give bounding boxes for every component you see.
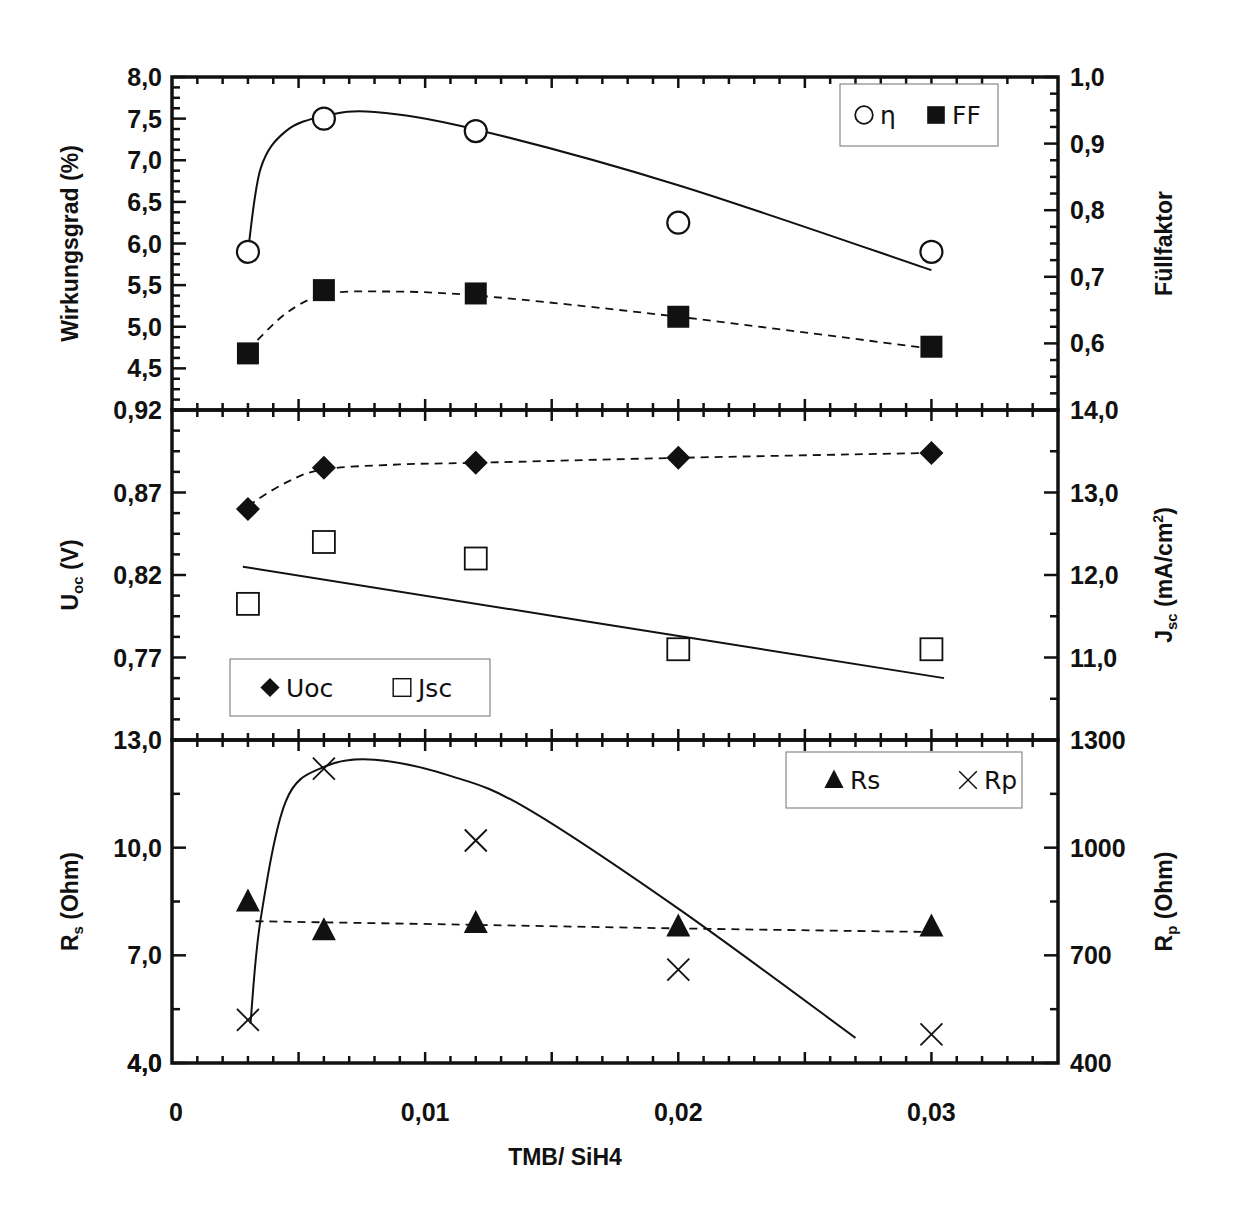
open-circle-marker bbox=[237, 241, 259, 263]
left-tick-label: 7,5 bbox=[127, 105, 162, 133]
legend-top: ηFF bbox=[840, 84, 998, 146]
axis-title: Jsc (mA/cm2) bbox=[1150, 507, 1180, 643]
open-circle-marker bbox=[855, 106, 873, 124]
series-jsc bbox=[237, 531, 942, 660]
filled-diamond-marker bbox=[666, 446, 690, 470]
axis-title: Wirkungsgrad (%) bbox=[57, 145, 83, 342]
cross-marker bbox=[667, 959, 689, 981]
right-tick-label: 1300 bbox=[1070, 726, 1126, 754]
legend-label: Rp bbox=[984, 766, 1017, 795]
x-tick-label: 0,02 bbox=[654, 1098, 703, 1126]
x-axis-title: TMB/ SiH4 bbox=[508, 1144, 622, 1170]
panel-bottom: 13,010,07,04,04,013001000700400Rs (Ohm)R… bbox=[57, 726, 1180, 1077]
right-tick-label: 700 bbox=[1070, 941, 1112, 969]
left-tick-label: 5,0 bbox=[127, 313, 162, 341]
x-tick-label: 0,01 bbox=[401, 1098, 450, 1126]
legend-label: Rs bbox=[850, 766, 880, 795]
panel-middle: 0,920,870,820,7714,013,012,011,0Uoc (V)J… bbox=[57, 396, 1180, 740]
filled-square-marker bbox=[927, 106, 945, 124]
open-square-marker bbox=[393, 679, 411, 697]
filled-square-marker bbox=[237, 342, 259, 364]
fit-line-rp bbox=[250, 759, 855, 1038]
cross-marker bbox=[465, 829, 487, 851]
filled-triangle-marker bbox=[919, 914, 943, 937]
left-tick-label: 7,0 bbox=[127, 146, 162, 174]
fit-line-ff bbox=[248, 291, 931, 350]
filled-triangle-marker bbox=[312, 917, 336, 940]
legend-label: Uoc bbox=[286, 674, 333, 703]
right-tick-label: 11,0 bbox=[1070, 644, 1117, 672]
right-tick-label: 12,0 bbox=[1070, 561, 1119, 589]
cross-marker bbox=[237, 1009, 259, 1031]
left-tick-label: 4,0 bbox=[127, 1049, 162, 1077]
legend-label: η bbox=[880, 101, 896, 130]
filled-square-marker bbox=[667, 306, 689, 328]
filled-square-marker bbox=[465, 282, 487, 304]
right-tick-label: 0,6 bbox=[1070, 329, 1105, 357]
series-η bbox=[237, 108, 942, 263]
axis-title: Füllfaktor bbox=[1151, 191, 1177, 296]
legend-bottom: RsRp bbox=[786, 752, 1022, 808]
right-tick-label: 0,8 bbox=[1070, 196, 1105, 224]
left-tick-label: 4,5 bbox=[127, 354, 162, 382]
right-tick-label: 1000 bbox=[1070, 834, 1126, 862]
left-tick-label: 0,92 bbox=[113, 396, 162, 424]
fit-line-uoc bbox=[248, 453, 931, 506]
legend-label: FF bbox=[952, 101, 981, 130]
left-tick-label: 13,0 bbox=[113, 726, 162, 754]
series-rs bbox=[236, 889, 943, 941]
legend-label: Jsc bbox=[416, 674, 452, 703]
right-tick-label: 14,0 bbox=[1070, 396, 1119, 424]
right-tick-label: 1,0 bbox=[1070, 63, 1105, 91]
filled-triangle-marker bbox=[236, 889, 260, 912]
open-circle-marker bbox=[313, 108, 335, 130]
cross-marker bbox=[920, 1023, 942, 1045]
filled-square-marker bbox=[920, 336, 942, 358]
x-tick-label: 0 bbox=[169, 1098, 183, 1126]
filled-diamond-marker bbox=[312, 456, 336, 480]
right-tick-label: 13,0 bbox=[1070, 479, 1119, 507]
open-square-marker bbox=[237, 593, 259, 615]
open-square-marker bbox=[920, 638, 942, 660]
open-square-marker bbox=[465, 548, 487, 570]
stacked-dual-axis-chart: 8,07,57,06,56,05,55,04,51,00,90,80,70,6W… bbox=[0, 0, 1237, 1211]
fit-line-rs bbox=[256, 921, 932, 932]
series-uoc bbox=[236, 441, 943, 521]
left-tick-label: 0,87 bbox=[113, 479, 162, 507]
open-square-marker bbox=[313, 531, 335, 553]
panel-top: 8,07,57,06,56,05,55,04,51,00,90,80,70,6W… bbox=[57, 63, 1177, 410]
filled-diamond-marker bbox=[236, 497, 260, 521]
cross-marker bbox=[313, 758, 335, 780]
right-tick-label: 400 bbox=[1070, 1049, 1112, 1077]
right-tick-label: 0,7 bbox=[1070, 263, 1105, 291]
filled-triangle-marker bbox=[464, 910, 488, 933]
filled-diamond-marker bbox=[919, 441, 943, 465]
axis-title: Rp (Ohm) bbox=[1151, 852, 1180, 952]
open-circle-marker bbox=[465, 120, 487, 142]
left-tick-label: 7,0 bbox=[127, 941, 162, 969]
legend-middle: UocJsc bbox=[230, 659, 490, 716]
left-tick-label: 0,82 bbox=[113, 561, 162, 589]
right-tick-label: 0,9 bbox=[1070, 130, 1105, 158]
left-tick-label: 6,0 bbox=[127, 230, 162, 258]
open-circle-marker bbox=[920, 241, 942, 263]
filled-triangle-marker bbox=[666, 914, 690, 937]
x-tick-label: 0,03 bbox=[907, 1098, 956, 1126]
left-tick-label: 10,0 bbox=[113, 834, 162, 862]
left-tick-label: 8,0 bbox=[127, 63, 162, 91]
filled-square-marker bbox=[313, 279, 335, 301]
axis-title: Rs (Ohm) bbox=[57, 852, 86, 951]
fit-line-η bbox=[248, 111, 931, 270]
left-tick-label: 6,5 bbox=[127, 188, 162, 216]
open-square-marker bbox=[667, 638, 689, 660]
left-tick-label: 0,77 bbox=[113, 644, 162, 672]
axis-title: Uoc (V) bbox=[57, 539, 86, 610]
filled-diamond-marker bbox=[464, 451, 488, 475]
open-circle-marker bbox=[667, 212, 689, 234]
left-tick-label: 5,5 bbox=[127, 271, 162, 299]
